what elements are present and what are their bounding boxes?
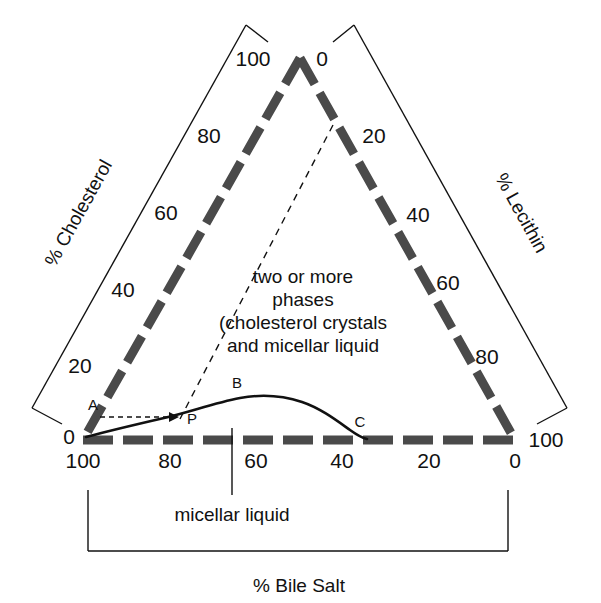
tick-left-60: 60 (154, 201, 177, 224)
right-bracket-top-tick (333, 25, 354, 42)
triangle-left-edge (83, 58, 300, 440)
region-label-line-4: and micellar liquid (227, 335, 379, 356)
tick-right-20: 20 (362, 124, 385, 147)
tick-right-60: 60 (436, 271, 459, 294)
diagram-canvas: 100 80 60 40 20 0 0 20 40 60 80 100 100 … (0, 0, 601, 603)
tick-bottom-60: 60 (244, 449, 267, 472)
tick-right-0: 0 (316, 47, 328, 70)
tick-left-0: 0 (63, 425, 75, 448)
region-label-micellar-liquid: micellar liquid (174, 504, 289, 525)
axis-title-lecithin: % Lecithin (491, 169, 552, 256)
tick-left-80: 80 (197, 124, 220, 147)
tick-bottom-40: 40 (330, 449, 353, 472)
point-label-a: A (88, 396, 98, 413)
axis-title-cholesterol: % Cholesterol (40, 156, 116, 270)
tick-right-100: 100 (528, 428, 563, 451)
right-bracket-bottom-tick (537, 408, 567, 424)
axis-title-bile-salt: % Bile Salt (253, 575, 346, 596)
tick-bottom-100: 100 (65, 449, 100, 472)
point-label-p: P (187, 410, 197, 427)
region-label-line-1: two or more (253, 266, 353, 287)
left-bracket-bottom-tick (32, 408, 62, 424)
left-bracket-top-tick (246, 25, 268, 42)
tick-left-100: 100 (235, 47, 270, 70)
ternary-phase-diagram-figure: 100 80 60 40 20 0 0 20 40 60 80 100 100 … (0, 0, 601, 603)
tick-right-40: 40 (406, 203, 429, 226)
tick-right-80: 80 (475, 345, 498, 368)
point-label-b: B (232, 374, 242, 391)
region-label-line-2: phases (272, 289, 333, 310)
tick-bottom-20: 20 (417, 449, 440, 472)
region-label-line-3: (cholesterol crystals (219, 312, 387, 333)
triangle-right-edge (300, 58, 515, 440)
tick-left-40: 40 (111, 278, 134, 301)
tick-bottom-80: 80 (158, 449, 181, 472)
tick-bottom-0: 0 (509, 449, 521, 472)
point-label-c: C (355, 413, 366, 430)
tick-left-20: 20 (68, 354, 91, 377)
